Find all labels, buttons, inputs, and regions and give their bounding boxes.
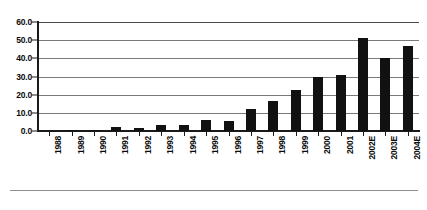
bar <box>156 125 166 131</box>
x-axis-tick-label: 1998 <box>277 136 287 154</box>
x-axis-tick-label: 1994 <box>188 136 198 154</box>
x-axis-tick-label: 1991 <box>120 136 130 154</box>
y-axis-tick <box>32 76 38 77</box>
x-axis-tick <box>206 132 207 136</box>
y-axis-tick-labels: 0.010.020.030.040.050.060.0 <box>0 0 36 140</box>
y-axis-tick-label: 40.0 <box>16 53 32 63</box>
x-axis-tick-label: 1995 <box>210 136 220 154</box>
x-axis-tick-label: 1992 <box>143 136 153 154</box>
x-axis-tick-label: 1993 <box>165 136 175 154</box>
x-axis-tick-labels: 1988198919901991199219931994199519961997… <box>38 136 419 182</box>
y-axis-tick-label: 0.0 <box>21 126 32 136</box>
x-axis-tick <box>229 132 230 136</box>
y-axis-tick <box>32 94 38 95</box>
x-axis-tick <box>296 132 297 136</box>
bar <box>134 128 144 131</box>
bar <box>358 38 368 131</box>
x-axis-tick <box>184 132 185 136</box>
x-axis-tick <box>139 132 140 136</box>
bar <box>89 130 99 131</box>
x-axis-tick <box>72 132 73 136</box>
bar <box>291 90 301 131</box>
x-axis-tick-label: 1996 <box>233 136 243 154</box>
bar <box>67 130 77 131</box>
x-axis-tick-label: 2002E <box>367 136 377 160</box>
bar <box>111 127 121 131</box>
y-axis-tick-label: 30.0 <box>16 72 32 82</box>
y-axis-tick <box>32 131 38 132</box>
x-axis-tick-label: 2000 <box>322 136 332 154</box>
x-axis-tick <box>116 132 117 136</box>
y-axis-tick <box>32 40 38 41</box>
x-axis-tick-label: 1997 <box>255 136 265 154</box>
y-axis-tick <box>32 58 38 59</box>
bar <box>380 58 390 131</box>
y-axis-tick <box>32 112 38 113</box>
x-axis-tick <box>408 132 409 136</box>
bar-series <box>38 22 419 131</box>
x-axis-tick-label: 1989 <box>76 136 86 154</box>
y-axis-tick-label: 50.0 <box>16 35 32 45</box>
x-axis-tick-label: 1988 <box>53 136 63 154</box>
bar-chart: 0.010.020.030.040.050.060.0 198819891990… <box>0 0 427 210</box>
x-axis-tick-label: 2004E <box>412 136 422 160</box>
bar <box>268 101 278 131</box>
x-axis-tick <box>161 132 162 136</box>
bar <box>336 75 346 131</box>
x-axis-tick-label: 1999 <box>300 136 310 154</box>
bar <box>313 77 323 132</box>
x-axis-tick <box>385 132 386 136</box>
y-axis-tick-label: 20.0 <box>16 90 32 100</box>
x-axis-tick <box>273 132 274 136</box>
x-axis-tick <box>251 132 252 136</box>
x-axis-tick <box>94 132 95 136</box>
bar <box>224 121 234 131</box>
x-axis-tick-label: 1990 <box>98 136 108 154</box>
bar <box>201 120 211 131</box>
x-axis-tick <box>318 132 319 136</box>
x-axis-tick-label: 2001 <box>345 136 355 154</box>
y-axis-tick <box>32 22 38 23</box>
bar <box>403 46 413 131</box>
bar <box>246 109 256 131</box>
y-axis-tick-label: 60.0 <box>16 17 32 27</box>
x-axis-tick <box>363 132 364 136</box>
y-axis-tick-label: 10.0 <box>16 108 32 118</box>
bottom-divider <box>10 190 418 191</box>
x-axis-tick <box>49 132 50 136</box>
bar <box>179 125 189 131</box>
x-axis-tick <box>341 132 342 136</box>
x-axis-tick-label: 2003E <box>389 136 399 160</box>
